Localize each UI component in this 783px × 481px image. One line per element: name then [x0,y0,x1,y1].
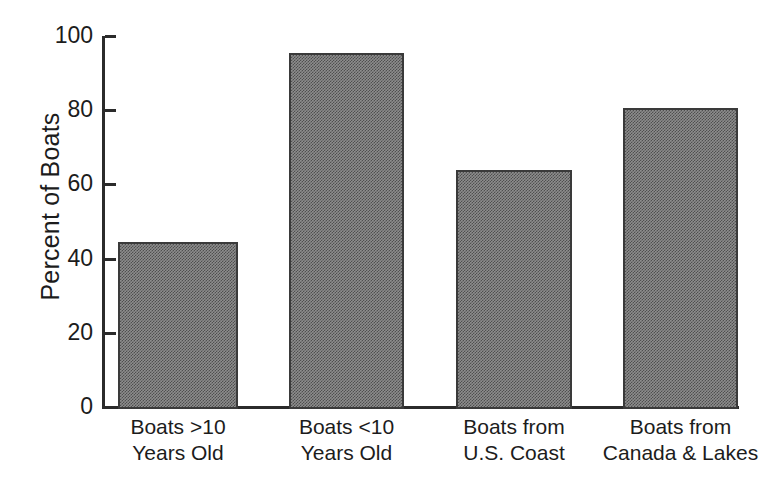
x-axis-category-label-line: Canada & Lakes [566,440,783,466]
bar-chart: Percent of Boats 020406080100 Boats >10Y… [0,0,783,481]
y-axis-tick-80 [105,109,116,112]
bar [623,108,738,409]
y-axis-tick-100 [105,35,116,38]
bar [289,53,404,409]
x-axis-category-label-line: Boats from [566,414,783,440]
y-axis-tick-label: 20 [0,321,93,344]
bar [456,170,572,409]
y-axis-tick-20 [105,332,116,335]
y-axis-tick-60 [105,183,116,186]
y-axis-line [102,36,105,409]
bar [118,242,238,409]
y-axis-tick-0 [105,406,116,409]
y-axis-title: Percent of Boats [36,97,65,317]
x-axis-category-label: Boats fromCanada & Lakes [566,414,783,466]
y-axis-tick-label: 40 [0,247,93,270]
y-axis-tick-40 [105,258,116,261]
y-axis-tick-label: 100 [0,24,93,47]
y-axis-tick-label: 80 [0,98,93,121]
y-axis-tick-label: 60 [0,172,93,195]
